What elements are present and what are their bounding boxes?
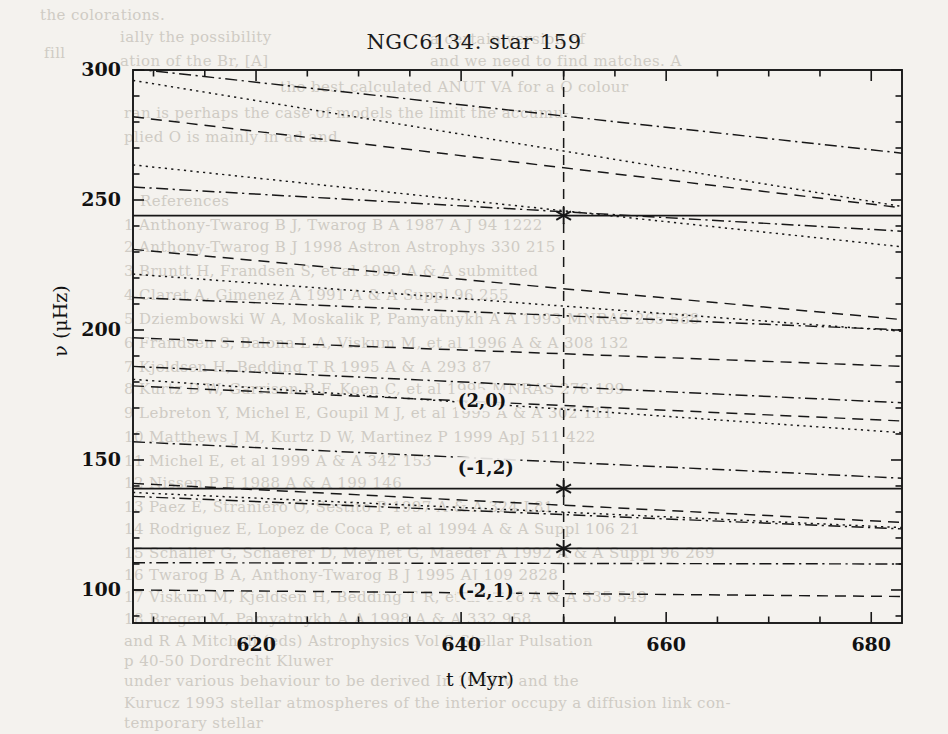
- x-axis-title: t (Myr): [380, 668, 580, 690]
- axis-frame: [133, 70, 902, 623]
- x-tick-label: 620: [226, 633, 286, 655]
- series-line-m03: [133, 117, 902, 208]
- y-tick-label: 100: [61, 578, 121, 600]
- x-tick-label: 640: [431, 633, 491, 655]
- mode-annotation: (-2,1): [456, 580, 516, 601]
- plot-area: [0, 0, 948, 734]
- series-line-m06: [133, 249, 902, 319]
- series-line-m18: [133, 590, 902, 597]
- y-tick-label: 150: [61, 448, 121, 470]
- x-tick-label: 680: [841, 633, 901, 655]
- y-tick-label: 300: [61, 58, 121, 80]
- series-group: [133, 69, 902, 623]
- y-tick-label: 250: [61, 188, 121, 210]
- series-line-m15: [133, 492, 902, 527]
- mode-annotation: (-1,2): [456, 457, 516, 478]
- x-tick-label: 660: [636, 633, 696, 655]
- series-line-m11: [133, 379, 902, 432]
- figure-page: the colorations.ially the possibilityati…: [0, 0, 948, 734]
- series-line-m02: [133, 80, 902, 206]
- series-line-m16: [133, 496, 902, 529]
- chart-svg: [0, 0, 948, 734]
- series-line-m04: [133, 165, 902, 247]
- series-line-m13: [133, 442, 902, 478]
- series-line-m01: [133, 69, 902, 154]
- y-tick-label: 200: [61, 318, 121, 340]
- mode-annotation: (2,0): [456, 390, 508, 411]
- series-line-m12: [133, 386, 902, 421]
- series-line-m10: [133, 366, 902, 402]
- series-line-m09: [133, 338, 902, 367]
- series-line-m07: [133, 274, 902, 331]
- series-line-m17: [133, 563, 902, 564]
